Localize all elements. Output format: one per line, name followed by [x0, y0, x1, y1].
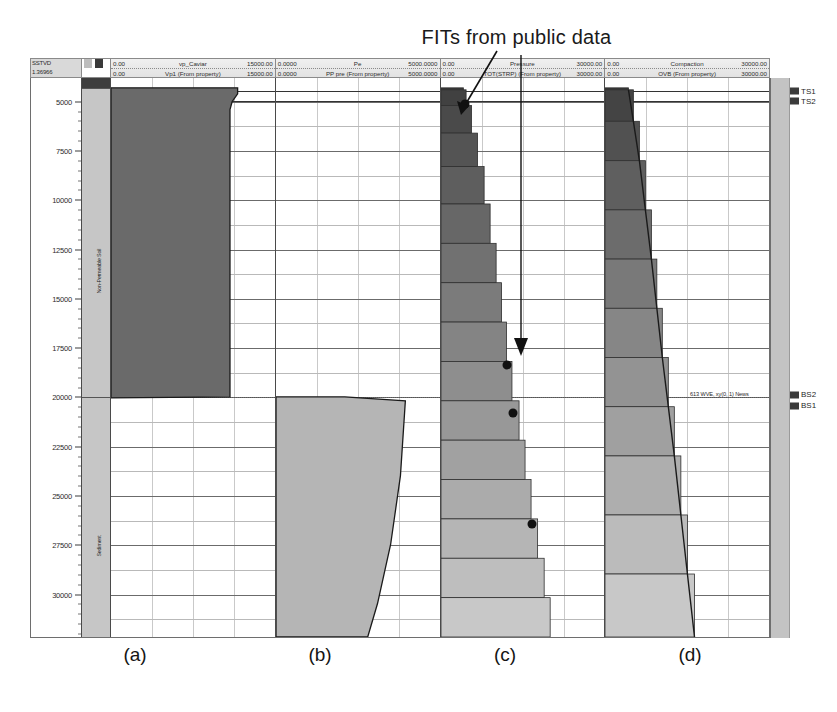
- depth-minor-tick: [78, 387, 81, 388]
- depth-label: 12500: [52, 245, 72, 254]
- track-b[interactable]: [276, 78, 441, 637]
- depth-minor-tick: [78, 555, 81, 556]
- track-a[interactable]: [111, 78, 276, 637]
- curve-fill-a: [111, 78, 275, 637]
- depth-minor-tick: [78, 456, 81, 457]
- depth-minor-tick: [78, 377, 81, 378]
- curve-step: [441, 598, 550, 637]
- depth-minor-tick: [78, 219, 81, 220]
- curve-step: [605, 210, 651, 259]
- depth-minor-tick: [78, 210, 81, 211]
- track-d-row2-low: 0.00: [607, 69, 619, 77]
- depth-minor-tick: [78, 229, 81, 230]
- track-a-row2-high: 15000.00: [247, 69, 273, 77]
- track-c-row1: 0.00 Pressure 30000.00: [441, 59, 605, 69]
- surface-name: TS1: [801, 86, 816, 95]
- depth-minor-tick: [78, 269, 81, 270]
- depth-label: 7500: [56, 146, 72, 155]
- track-d-row2: 0.00 OVB (From property) 30000.00: [605, 69, 769, 77]
- track-b-row1-name: Pe: [354, 59, 362, 68]
- lithology-header: [82, 59, 111, 77]
- track-b-row2: 0.0000 PP pre (From property) 5000.0000: [276, 69, 440, 77]
- track-c[interactable]: [441, 78, 606, 637]
- depth-minor-tick: [78, 535, 81, 536]
- depth-label: 10000: [52, 196, 72, 205]
- surface-label[interactable]: TS1: [790, 86, 816, 95]
- surface-chip-icon: [790, 88, 799, 95]
- surface-label[interactable]: BS2: [790, 390, 816, 399]
- track-header-c[interactable]: 0.00 Pressure 30000.00 0.00 TOT(STRP) (F…: [441, 59, 606, 77]
- track-d[interactable]: [605, 78, 769, 637]
- lithology-band: [82, 88, 110, 399]
- depth-minor-tick: [78, 279, 81, 280]
- depth-minor-tick: [78, 515, 81, 516]
- depth-minor-tick: [78, 259, 81, 260]
- depth-minor-tick: [78, 565, 81, 566]
- surface-name: BS2: [801, 390, 816, 399]
- track-a-row2: 0.00 Vp1 (From property) 15000.00: [111, 69, 275, 77]
- curve-fill: [111, 88, 238, 398]
- depth-minor-tick: [78, 614, 81, 615]
- curve-step: [441, 167, 484, 204]
- depth-minor-tick: [78, 141, 81, 142]
- track-b-row2-high: 5000.0000: [408, 69, 437, 77]
- surface-label[interactable]: TS2: [790, 96, 816, 105]
- depth-minor-tick: [78, 584, 81, 585]
- depth-minor-tick: [78, 407, 81, 408]
- depth-minor-tick: [78, 436, 81, 437]
- depth-label: 30000: [52, 590, 72, 599]
- depth-tick: [75, 200, 81, 201]
- depth-tick: [75, 348, 81, 349]
- panel-label-row: (a)(b)(c)(d): [30, 644, 770, 678]
- depth-tick: [75, 101, 81, 102]
- track-c-row1-name: Pressure: [510, 59, 535, 68]
- fit-marker[interactable]: [503, 360, 512, 369]
- depth-minor-tick: [78, 131, 81, 132]
- depth-header: SSTVD 1.36966: [31, 59, 82, 77]
- depth-minor-tick: [78, 308, 81, 309]
- depth-minor-tick: [78, 417, 81, 418]
- track-b-row1-high: 5000.0000: [408, 59, 437, 68]
- lithology-label: Sediment: [96, 535, 102, 556]
- depth-axis: 5000750010000125001500017500200002250025…: [31, 78, 82, 637]
- depth-tick: [75, 150, 81, 151]
- depth-tick: [75, 496, 81, 497]
- track-d-row2-high: 30000.00: [741, 69, 767, 77]
- depth-label: 17500: [52, 344, 72, 353]
- depth-minor-tick: [78, 367, 81, 368]
- depth-minor-tick: [78, 427, 81, 428]
- track-b-row2-low: 0.0000: [278, 69, 297, 77]
- surface-label[interactable]: BS1: [790, 401, 816, 410]
- track-c-row2-name: TOT(STRP) (From property): [484, 69, 562, 77]
- depth-header-line2: 1.36966: [32, 69, 52, 75]
- track-header-strip: SSTVD 1.36966 0.00 vp_Caviar 15000.00 0.…: [30, 58, 770, 78]
- track-c-row2-high: 30000.00: [576, 69, 602, 77]
- track-b-row2-name: PP pre (From property): [326, 69, 390, 77]
- log-panel: SSTVD 1.36966 0.00 vp_Caviar 15000.00 0.…: [30, 58, 770, 638]
- lithology-swatch-dark: [95, 59, 103, 68]
- depth-tick: [75, 594, 81, 595]
- curve-step: [441, 106, 472, 134]
- depth-label: 20000: [52, 393, 72, 402]
- depth-minor-tick: [78, 634, 81, 635]
- depth-minor-tick: [78, 486, 81, 487]
- track-a-row1-high: 15000.00: [247, 59, 273, 68]
- curve-fill-b: [276, 78, 440, 637]
- track-a-row2-name: Vp1 (From property): [165, 69, 221, 77]
- track-header-a[interactable]: 0.00 vp_Caviar 15000.00 0.00 Vp1 (From p…: [111, 59, 276, 77]
- gutter-bar: [770, 78, 790, 638]
- curve-step: [605, 574, 695, 637]
- figure-title: FITs from public data: [0, 26, 837, 49]
- fit-marker[interactable]: [509, 409, 518, 418]
- track-header-b[interactable]: 0.0000 Pe 5000.0000 0.0000 PP pre (From …: [276, 59, 441, 77]
- depth-minor-tick: [78, 476, 81, 477]
- track-d-row1-name: Compaction: [671, 59, 704, 68]
- curve-step: [441, 283, 502, 322]
- curve-step: [605, 308, 662, 357]
- track-d-row1: 0.00 Compaction 30000.00: [605, 59, 769, 69]
- track-d-row1-high: 30000.00: [741, 59, 767, 68]
- fit-marker[interactable]: [461, 99, 470, 108]
- track-header-d[interactable]: 0.00 Compaction 30000.00 0.00 OVB (From …: [605, 59, 769, 77]
- depth-minor-tick: [78, 338, 81, 339]
- fit-marker[interactable]: [528, 519, 537, 528]
